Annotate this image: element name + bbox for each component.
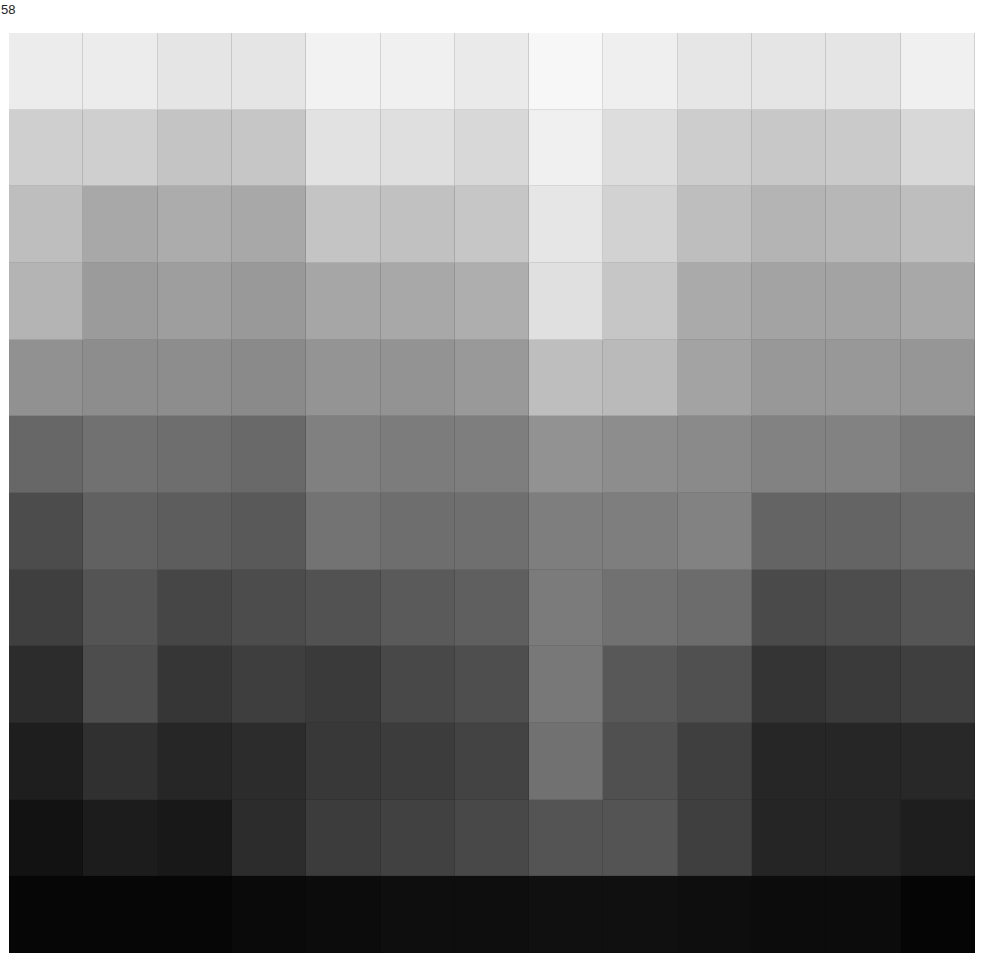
gray-swatch (306, 876, 380, 953)
gray-swatch (83, 416, 157, 493)
gray-swatch (603, 723, 677, 800)
gray-swatch (529, 263, 603, 340)
gray-swatch (901, 340, 975, 417)
gray-swatch (381, 646, 455, 723)
gray-swatch (901, 570, 975, 647)
gray-swatch (752, 263, 826, 340)
gray-swatch (232, 416, 306, 493)
gray-swatch (529, 570, 603, 647)
gray-swatch (455, 493, 529, 570)
gray-swatch (678, 340, 752, 417)
gray-swatch (158, 33, 232, 110)
gray-swatch (826, 646, 900, 723)
gray-swatch (306, 646, 380, 723)
gray-swatch (455, 876, 529, 953)
gray-swatch (901, 186, 975, 263)
gray-swatch (752, 800, 826, 877)
gray-swatch (826, 263, 900, 340)
gray-swatch (603, 263, 677, 340)
gray-swatch (603, 110, 677, 187)
gray-swatch (83, 340, 157, 417)
gray-swatch (529, 800, 603, 877)
gray-swatch (158, 876, 232, 953)
gray-swatch (158, 340, 232, 417)
gray-swatch (158, 186, 232, 263)
gray-swatch (306, 33, 380, 110)
gray-swatch (752, 340, 826, 417)
gray-swatch (752, 110, 826, 187)
gray-swatch (455, 33, 529, 110)
gray-swatch (603, 416, 677, 493)
gray-swatch (232, 340, 306, 417)
gray-swatch (901, 493, 975, 570)
gray-swatch (306, 340, 380, 417)
gray-swatch (232, 570, 306, 647)
gray-swatch (83, 263, 157, 340)
gray-swatch (678, 723, 752, 800)
gray-swatch (455, 646, 529, 723)
gray-swatch (306, 110, 380, 187)
gray-swatch (603, 186, 677, 263)
gray-swatch (306, 570, 380, 647)
gray-swatch (752, 723, 826, 800)
gray-swatch (826, 570, 900, 647)
gray-swatch (306, 800, 380, 877)
gray-swatch (9, 493, 83, 570)
gray-swatch (901, 110, 975, 187)
gray-swatch (232, 33, 306, 110)
gray-swatch (752, 646, 826, 723)
gray-swatch (158, 110, 232, 187)
gray-swatch (158, 800, 232, 877)
gray-swatch (232, 800, 306, 877)
gray-swatch (752, 416, 826, 493)
gray-swatch (9, 723, 83, 800)
gray-swatch (529, 646, 603, 723)
gray-swatch (381, 800, 455, 877)
gray-swatch (381, 493, 455, 570)
gray-swatch (529, 186, 603, 263)
gray-swatch (83, 876, 157, 953)
gray-swatch (83, 110, 157, 187)
gray-swatch (381, 416, 455, 493)
gray-swatch (901, 876, 975, 953)
gray-swatch (826, 800, 900, 877)
gray-swatch (381, 33, 455, 110)
gray-swatch (901, 800, 975, 877)
gray-swatch (752, 493, 826, 570)
gray-swatch (9, 110, 83, 187)
gray-swatch (306, 263, 380, 340)
gray-swatch (232, 493, 306, 570)
gray-swatch (381, 340, 455, 417)
gray-swatch (678, 186, 752, 263)
gray-swatch (752, 876, 826, 953)
gray-swatch (158, 723, 232, 800)
gray-swatch (83, 723, 157, 800)
gray-swatch (826, 416, 900, 493)
gray-swatch (529, 110, 603, 187)
gray-swatch (9, 876, 83, 953)
gray-swatch (455, 416, 529, 493)
gray-swatch (603, 493, 677, 570)
gray-swatch (9, 800, 83, 877)
gray-swatch (9, 263, 83, 340)
gray-swatch (232, 186, 306, 263)
gray-swatch (9, 340, 83, 417)
gray-swatch (826, 876, 900, 953)
gray-swatch (455, 723, 529, 800)
gray-swatch (455, 110, 529, 187)
gray-swatch (678, 263, 752, 340)
gray-swatch (158, 493, 232, 570)
gray-swatch (306, 493, 380, 570)
gray-swatch (9, 33, 83, 110)
gray-swatch (678, 570, 752, 647)
gray-swatch (83, 800, 157, 877)
grayscale-swatch-grid (9, 33, 975, 953)
gray-swatch (529, 340, 603, 417)
gray-swatch (455, 570, 529, 647)
gray-swatch (455, 340, 529, 417)
gray-swatch (232, 263, 306, 340)
gray-swatch (158, 416, 232, 493)
gray-swatch (901, 263, 975, 340)
gray-swatch (752, 186, 826, 263)
gray-swatch (603, 646, 677, 723)
